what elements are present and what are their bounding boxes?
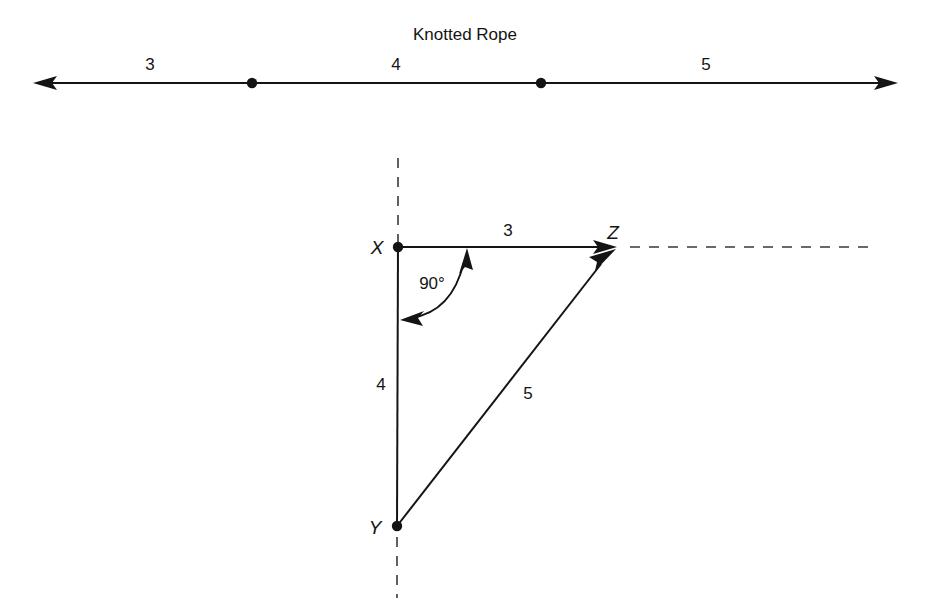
rope-segment-label-3: 5 bbox=[701, 55, 710, 74]
right-angle-arc-arrowhead-upper-icon bbox=[459, 248, 473, 274]
rope-title: Knotted Rope bbox=[413, 25, 517, 44]
side-label-xz: 3 bbox=[503, 221, 512, 240]
vertex-label-z: Z bbox=[606, 222, 620, 243]
rope-segment-label-1: 3 bbox=[145, 55, 154, 74]
angle-label-90-degrees: 90° bbox=[419, 274, 445, 293]
right-angle-arc-arrowhead-lower-icon bbox=[400, 311, 424, 326]
vertex-dot-x bbox=[393, 242, 403, 252]
yz-arrowhead-icon bbox=[589, 249, 616, 271]
side-label-yz: 5 bbox=[523, 384, 532, 403]
triangle-leg-xy bbox=[397, 247, 398, 526]
rope-knot-dot-2 bbox=[536, 78, 546, 88]
vertex-label-y: Y bbox=[369, 517, 383, 538]
vertex-dot-y bbox=[392, 521, 402, 531]
knotted-rope-and-right-triangle-figure: Knotted Rope 3 4 5 bbox=[0, 0, 931, 598]
vertex-label-x: X bbox=[370, 237, 385, 258]
knotted-rope-group: Knotted Rope 3 4 5 bbox=[33, 25, 898, 90]
triangle-hypotenuse-yz bbox=[397, 264, 601, 526]
rope-knot-dot-1 bbox=[247, 78, 257, 88]
rope-segment-label-2: 4 bbox=[391, 55, 400, 74]
side-label-xy: 4 bbox=[376, 375, 385, 394]
right-triangle-group: X Y Z 3 4 5 90° bbox=[369, 158, 874, 598]
